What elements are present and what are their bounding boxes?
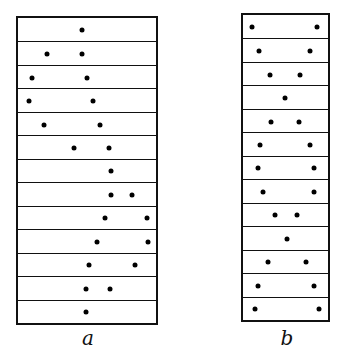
dot-marker	[146, 239, 151, 244]
panel-b-row-5	[243, 109, 328, 132]
dot-marker	[304, 260, 309, 265]
panel-b-row-3	[243, 62, 328, 85]
dot-marker	[72, 146, 77, 151]
dot-marker	[84, 286, 89, 291]
dot-marker	[273, 213, 278, 218]
panel-b-row-4	[243, 85, 328, 108]
dot-marker	[315, 24, 320, 29]
dot-marker	[253, 307, 258, 312]
panel-b-row-10	[243, 226, 328, 249]
panel-a-row-2	[18, 41, 156, 64]
dot-marker	[268, 72, 273, 77]
panel-a-row-10	[18, 229, 156, 252]
dot-marker	[45, 52, 50, 57]
panel-a-row-5	[18, 112, 156, 135]
dot-marker	[298, 72, 303, 77]
panel-b-row-13	[243, 297, 328, 320]
panel-a-row-8	[18, 182, 156, 205]
dot-marker	[107, 146, 112, 151]
dot-marker	[42, 122, 47, 127]
panel-b-row-12	[243, 273, 328, 296]
dot-marker	[80, 27, 85, 32]
dot-marker	[308, 49, 313, 54]
panel-a-row-13	[18, 300, 156, 323]
panel-b-row-11	[243, 250, 328, 273]
dot-marker	[308, 143, 313, 148]
dot-marker	[80, 52, 85, 57]
dot-marker	[312, 189, 317, 194]
dot-marker	[312, 166, 317, 171]
dot-marker	[256, 283, 261, 288]
dot-marker	[30, 75, 35, 80]
panel-b	[241, 13, 330, 322]
dot-marker	[295, 213, 300, 218]
dot-marker	[145, 216, 150, 221]
dot-marker	[109, 169, 114, 174]
dot-marker	[297, 119, 302, 124]
panel-a	[16, 16, 158, 325]
dot-marker	[103, 216, 108, 221]
dot-marker	[108, 286, 113, 291]
dot-marker	[95, 239, 100, 244]
panel-a-row-6	[18, 135, 156, 158]
dot-marker	[87, 263, 92, 268]
dot-marker	[133, 263, 138, 268]
panel-label-a: a	[82, 326, 94, 350]
panel-a-row-4	[18, 88, 156, 111]
panel-a-row-11	[18, 253, 156, 276]
panel-b-row-1	[243, 15, 328, 38]
dot-marker	[261, 189, 266, 194]
dot-marker	[98, 122, 103, 127]
panel-b-row-2	[243, 38, 328, 61]
panel-a-row-3	[18, 65, 156, 88]
dot-marker	[317, 307, 322, 312]
dot-marker	[285, 236, 290, 241]
dot-marker	[250, 24, 255, 29]
dot-marker	[256, 166, 261, 171]
dot-marker	[85, 75, 90, 80]
dot-marker	[27, 99, 32, 104]
panel-b-row-7	[243, 156, 328, 179]
dot-marker	[312, 283, 317, 288]
dot-marker	[269, 119, 274, 124]
panel-label-b: b	[281, 326, 294, 350]
panel-b-row-8	[243, 179, 328, 202]
dot-marker	[283, 96, 288, 101]
dot-marker	[109, 192, 114, 197]
dot-marker	[266, 260, 271, 265]
panel-b-row-6	[243, 132, 328, 155]
dot-marker	[257, 49, 262, 54]
panel-a-row-1	[18, 18, 156, 41]
panel-a-row-9	[18, 206, 156, 229]
panel-a-row-12	[18, 276, 156, 299]
panel-a-row-7	[18, 159, 156, 182]
dot-marker	[84, 310, 89, 315]
dot-marker	[258, 143, 263, 148]
dot-marker	[91, 99, 96, 104]
panel-b-row-9	[243, 203, 328, 226]
dot-marker	[130, 192, 135, 197]
